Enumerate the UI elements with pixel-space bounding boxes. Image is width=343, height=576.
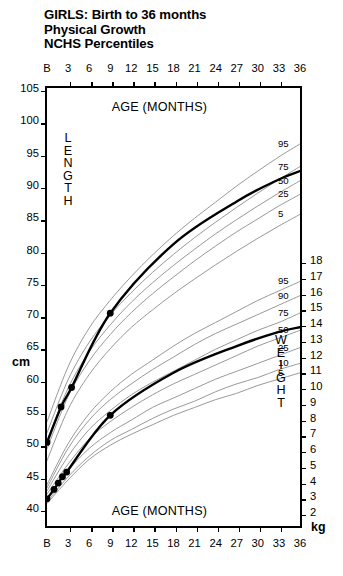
tick-weight-2 [300,515,306,516]
tick-bottom-month-3 [70,526,71,532]
tick-weight-10 [300,389,306,390]
tick-top-month-3 [70,82,71,88]
x-axis-bottom-label-12: 12 [125,538,137,549]
tick-length-75 [41,285,47,286]
y-axis-length-label-65: 65 [27,342,39,353]
page-title-line-2: Physical Growth [44,23,334,38]
x-axis-top-label-6: 6 [86,63,92,74]
tick-length-60 [41,382,47,383]
x-axis-bottom-label-33: 33 [273,538,285,549]
tick-bottom-month-18 [176,526,177,532]
tick-weight-9 [300,405,306,406]
y-axis-length-label-90: 90 [27,180,39,191]
x-axis-top-label-30: 30 [252,63,264,74]
tick-length-65 [41,349,47,350]
length-axis-vertical-label: LENGTH [61,132,75,208]
weight-data-point-4 [63,469,70,476]
page-title-line-3: NCHS Percentiles [44,37,334,52]
length-data-point-3 [107,310,114,317]
tick-bottom-month-12 [133,526,134,532]
y-axis-weight-label-6: 6 [310,444,316,455]
tick-length-50 [41,446,47,447]
x-axis-bottom-label-21: 21 [188,538,200,549]
x-axis-bottom-label-27: 27 [231,538,243,549]
y-axis-weight-label-16: 16 [310,287,322,298]
y-axis-weight-label-11: 11 [310,366,322,377]
chart-plot-inner: AGE (MONTHS) AGE (MONTHS) LENGTH WEIGHT [47,88,300,526]
tick-length-100 [41,123,47,124]
x-axis-top-label-36: 36 [294,63,306,74]
tick-top-month-12 [133,82,134,88]
vertical-letter: T [274,397,288,410]
x-axis-top-tick-labels: B369121518212427303336 [0,62,343,78]
tick-top-month-21 [197,82,198,88]
vertical-letter: N [61,157,75,170]
length-percentile-label-95: 95 [278,139,289,149]
y-axis-length-label-70: 70 [27,310,39,321]
x-axis-top-label-33: 33 [273,63,285,74]
tick-length-40 [41,511,47,512]
y-axis-length-label-80: 80 [27,245,39,256]
tick-weight-15 [300,310,306,311]
weight-percentile-label-5: 5 [278,368,283,378]
tick-length-90 [41,188,47,189]
age-months-label-bottom: AGE (MONTHS) [112,504,207,518]
tick-bottom-month-27 [239,526,240,532]
y-axis-weight-label-10: 10 [310,381,322,392]
growth-chart-page: GIRLS: Birth to 36 months Physical Growt… [0,0,343,576]
y-axis-length-label-55: 55 [27,406,39,417]
length-data-point-1 [58,404,65,411]
x-axis-top-label-27: 27 [231,63,243,74]
tick-weight-16 [300,295,306,296]
tick-weight-13 [300,342,306,343]
tick-top-month-33 [281,82,282,88]
y-axis-length-label-75: 75 [27,277,39,288]
length-unit-label: cm [12,355,30,369]
tick-bottom-month-33 [281,526,282,532]
x-axis-top-label-9: 9 [107,63,113,74]
y-axis-weight-label-13: 13 [310,334,322,345]
tick-length-70 [41,317,47,318]
x-axis-bottom-label-B: B [43,538,50,549]
tick-weight-6 [300,452,306,453]
length-percentile-curve-25 [47,194,300,449]
x-axis-bottom-label-15: 15 [146,538,158,549]
length-percentile-curve-50 [47,181,300,441]
weight-percentile-curve-5 [47,373,300,504]
y-axis-weight-label-5: 5 [310,460,316,471]
tick-weight-7 [300,436,306,437]
chart-title-block: GIRLS: Birth to 36 months Physical Growt… [44,8,334,52]
x-axis-bottom-tick-labels: B369121518212427303336 [0,536,343,552]
y-axis-length-tick-labels: 105100959085807570656055504540 [0,86,39,528]
y-axis-length-label-45: 45 [27,471,39,482]
y-axis-length-label-60: 60 [27,374,39,385]
tick-length-80 [41,253,47,254]
weight-percentile-curve-25 [47,348,300,499]
tick-bottom-month-21 [197,526,198,532]
tick-weight-4 [300,484,306,485]
tick-top-month-18 [176,82,177,88]
weight-percentile-label-25: 25 [278,343,289,353]
tick-bottom-month-15 [154,526,155,532]
vertical-letter: L [61,132,75,145]
tick-bottom-month-6 [91,526,92,532]
length-percentile-label-75: 75 [278,162,289,172]
x-axis-bottom-label-3: 3 [65,538,71,549]
tick-length-85 [41,220,47,221]
patient-weight-curve [47,327,300,499]
y-axis-weight-label-9: 9 [310,397,316,408]
x-axis-top-label-24: 24 [209,63,221,74]
x-axis-bottom-label-30: 30 [252,538,264,549]
length-data-point-0 [47,439,50,446]
y-axis-weight-label-4: 4 [310,476,316,487]
y-axis-weight-label-14: 14 [310,318,322,329]
patient-length-curve [47,171,300,442]
tick-top-month-27 [239,82,240,88]
weight-percentile-label-75: 75 [278,308,289,318]
length-percentile-label-5: 5 [278,210,283,220]
tick-bottom-month-24 [218,526,219,532]
y-axis-length-label-105: 105 [20,83,39,94]
tick-length-45 [41,479,47,480]
x-axis-top-label-21: 21 [188,63,200,74]
age-months-label-top: AGE (MONTHS) [112,100,207,114]
